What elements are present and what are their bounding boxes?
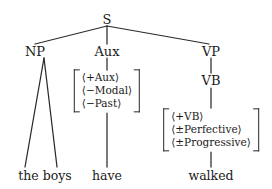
edge-s-to-vp xyxy=(107,26,209,44)
vb-matrix-rows: ⟨+VB⟩ ⟨±Perfective⟩ ⟨±Progressive⟩ xyxy=(169,108,253,151)
node-np: NP xyxy=(25,45,45,58)
aux-matrix-right-bracket xyxy=(134,69,140,112)
terminal-vb-word: walked xyxy=(188,170,233,183)
aux-matrix-rows: ⟨+Aux⟩ ⟨−Modal⟩ ⟨−Past⟩ xyxy=(80,69,134,112)
aux-feature-row: ⟨+Aux⟩ xyxy=(82,71,132,84)
vb-feature-row: ⟨±Progressive⟩ xyxy=(171,137,251,150)
syntax-tree-diagram: S NP Aux VP VB ⟨+Aux⟩ ⟨−Modal⟩ ⟨−Past⟩ ⟨… xyxy=(0,0,272,189)
vb-feature-row: ⟨±Perfective⟩ xyxy=(171,123,251,136)
aux-feature-row: ⟨−Past⟩ xyxy=(82,98,132,111)
edge-np-to-boys xyxy=(44,58,57,167)
vb-feature-matrix: ⟨+VB⟩ ⟨±Perfective⟩ ⟨±Progressive⟩ xyxy=(163,108,259,151)
vb-feature-row: ⟨+VB⟩ xyxy=(171,110,251,123)
terminal-aux-word: have xyxy=(92,170,122,183)
node-aux: Aux xyxy=(94,45,119,58)
aux-feature-row: ⟨−Modal⟩ xyxy=(82,84,132,97)
node-s: S xyxy=(103,13,112,26)
node-vb: VB xyxy=(202,74,221,87)
edge-s-to-np xyxy=(35,26,107,44)
edge-np-to-the xyxy=(25,58,44,167)
aux-feature-matrix: ⟨+Aux⟩ ⟨−Modal⟩ ⟨−Past⟩ xyxy=(74,69,140,112)
node-vp: VP xyxy=(202,45,220,58)
vb-matrix-right-bracket xyxy=(253,108,259,151)
terminal-np-words: the boys xyxy=(18,170,71,183)
